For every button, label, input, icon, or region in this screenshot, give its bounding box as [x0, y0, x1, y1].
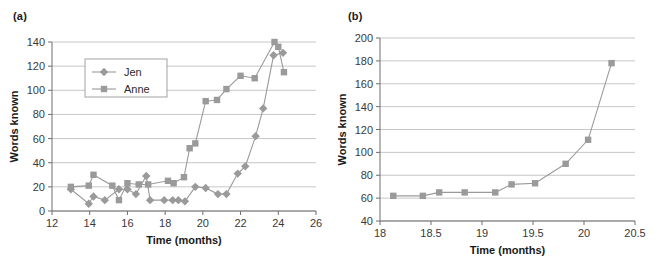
- y-tick-label: 60: [361, 192, 373, 204]
- y-tick-label: 180: [355, 55, 373, 67]
- marker-square: [237, 73, 243, 79]
- x-tick-label: 12: [46, 217, 58, 229]
- x-tick-label: 14: [84, 217, 96, 229]
- marker-square: [461, 189, 467, 195]
- y-tick-label: 20: [33, 181, 45, 193]
- marker-diamond: [181, 197, 189, 205]
- x-axis-ticks: 1818.51919.52020.5: [374, 221, 646, 239]
- y-axis-title: Words known: [336, 93, 348, 165]
- marker-diamond: [214, 190, 222, 198]
- y-tick-label: 120: [355, 124, 373, 136]
- x-tick-label: 18.5: [420, 227, 441, 239]
- x-tick-label: 22: [234, 217, 246, 229]
- marker-square: [124, 180, 130, 186]
- marker-square: [90, 172, 96, 178]
- marker-square: [136, 181, 142, 187]
- x-tick-label: 26: [310, 217, 322, 229]
- marker-square: [86, 182, 92, 188]
- marker-square: [145, 181, 151, 187]
- legend-label-jen: Jen: [124, 66, 142, 78]
- y-axis-ticks: 406080100120140160180200: [355, 32, 380, 227]
- y-tick-label: 0: [39, 205, 45, 217]
- marker-square: [532, 180, 538, 186]
- marker-diamond: [269, 51, 277, 59]
- x-tick-label: 24: [272, 217, 284, 229]
- x-tick-label: 16: [121, 217, 133, 229]
- y-tick-label: 160: [355, 78, 373, 90]
- figure-two-panel-line-charts: (a) 0204060801001201401214161820222426Ti…: [0, 0, 657, 280]
- panel-a-plot: 0204060801001201401214161820222426Time (…: [0, 0, 330, 280]
- marker-square: [492, 189, 498, 195]
- y-tick-label: 140: [27, 36, 45, 48]
- y-tick-label: 100: [27, 84, 45, 96]
- marker-square: [181, 174, 187, 180]
- y-tick-label: 100: [355, 146, 373, 158]
- legend-marker-square: [101, 86, 107, 92]
- marker-square: [420, 193, 426, 199]
- marker-diamond: [251, 132, 259, 140]
- marker-diamond: [89, 192, 97, 200]
- x-axis-ticks: 1214161820222426: [46, 211, 322, 229]
- marker-diamond: [174, 196, 182, 204]
- panel-b: (b) 4060801001201401601802001818.51919.5…: [330, 0, 657, 280]
- marker-diamond: [191, 183, 199, 191]
- marker-square: [281, 69, 287, 75]
- x-tick-label: 19: [476, 227, 488, 239]
- panel-a-label: (a): [13, 10, 27, 22]
- marker-diamond: [132, 190, 140, 198]
- y-tick-label: 120: [27, 60, 45, 72]
- y-tick-label: 40: [361, 215, 373, 227]
- marker-square: [436, 189, 442, 195]
- legend: JenAnne: [85, 59, 167, 97]
- marker-square: [170, 180, 176, 186]
- y-tick-label: 80: [33, 108, 45, 120]
- marker-diamond: [142, 172, 150, 180]
- y-axis-ticks: 020406080100120140: [27, 36, 52, 217]
- marker-diamond: [222, 190, 230, 198]
- legend-label-anne: Anne: [124, 83, 150, 95]
- marker-square: [390, 193, 396, 199]
- x-axis-title: Time (months): [470, 244, 546, 256]
- marker-diamond: [160, 196, 168, 204]
- x-tick-label: 20.5: [624, 227, 645, 239]
- x-tick-label: 19.5: [522, 227, 543, 239]
- x-tick-label: 18: [159, 217, 171, 229]
- y-tick-label: 80: [361, 169, 373, 181]
- marker-square: [109, 182, 115, 188]
- marker-diamond: [259, 104, 267, 112]
- panel-b-label: (b): [348, 10, 363, 22]
- marker-square: [252, 75, 258, 81]
- x-tick-label: 20: [578, 227, 590, 239]
- marker-square: [608, 60, 614, 66]
- marker-square: [214, 97, 220, 103]
- marker-square: [165, 178, 171, 184]
- marker-square: [186, 145, 192, 151]
- marker-square: [508, 181, 514, 187]
- marker-square: [116, 197, 122, 203]
- marker-square: [68, 184, 74, 190]
- x-tick-label: 20: [197, 217, 209, 229]
- panel-b-plot: 4060801001201401601802001818.51919.52020…: [330, 0, 657, 280]
- marker-square: [192, 140, 198, 146]
- marker-square: [223, 86, 229, 92]
- panel-a: (a) 0204060801001201401214161820222426Ti…: [0, 0, 330, 280]
- marker-square: [202, 98, 208, 104]
- marker-square: [562, 161, 568, 167]
- gridlines: [380, 38, 635, 221]
- y-tick-label: 140: [355, 101, 373, 113]
- y-tick-label: 200: [355, 32, 373, 44]
- marker-diamond: [146, 196, 154, 204]
- y-tick-label: 40: [33, 157, 45, 169]
- y-axis-title: Words known: [8, 90, 20, 162]
- marker-diamond: [201, 184, 209, 192]
- y-tick-label: 60: [33, 133, 45, 145]
- marker-square: [275, 44, 281, 50]
- x-tick-label: 18: [374, 227, 386, 239]
- x-axis-title: Time (months): [146, 234, 222, 246]
- marker-square: [585, 137, 591, 143]
